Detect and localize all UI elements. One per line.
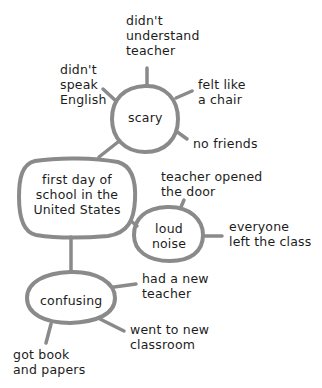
- detail-felt-like-chair: felt like a chair: [198, 77, 246, 107]
- spoke-felt-like-chair: [176, 91, 192, 98]
- branch-loud-noise: loud noise: [134, 221, 204, 251]
- detail-didnt-speak-english: didn't speak English: [60, 62, 107, 107]
- center-topic: first day of school in the United States: [20, 172, 134, 217]
- detail-no-friends: no friends: [193, 136, 258, 151]
- link-scary-center: [99, 142, 118, 157]
- spoke-no-friends: [176, 131, 187, 139]
- spoke-went-to-classroom: [100, 319, 124, 331]
- spoke-had-new-teacher: [114, 284, 136, 287]
- detail-teacher-opened-door: teacher opened the door: [161, 169, 262, 199]
- detail-everyone-left-class: everyone left the class: [229, 219, 312, 249]
- detail-had-new-teacher: had a new teacher: [142, 271, 209, 301]
- branch-confusing: confusing: [40, 293, 102, 308]
- spoke-got-book: [46, 324, 51, 343]
- branch-scary: scary: [128, 110, 163, 125]
- spoke-teacher-opened: [181, 200, 184, 207]
- detail-didnt-understand-teacher: didn't understand teacher: [126, 13, 200, 58]
- detail-got-book-and-papers: got book and papers: [13, 347, 85, 377]
- detail-went-to-new-classroom: went to new classroom: [130, 322, 209, 352]
